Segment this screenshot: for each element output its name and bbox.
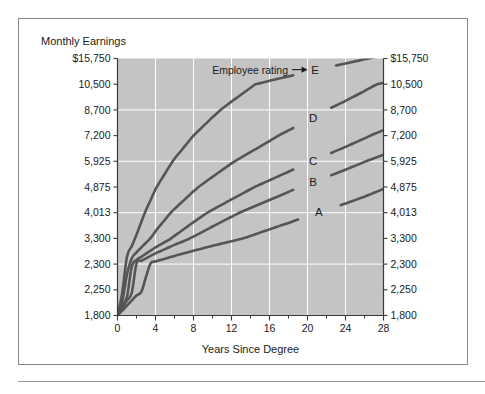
y-tick-label-right: 2,250 bbox=[391, 283, 417, 295]
series-label-e: E bbox=[311, 64, 319, 76]
y-tick-label-left: 2,250 bbox=[84, 283, 110, 295]
y-tick-label-right: 1,800 bbox=[391, 309, 417, 321]
y-tick-label-left: 2,300 bbox=[84, 258, 110, 270]
series-label-b: B bbox=[309, 176, 317, 188]
y-tick-label-left: $15,750 bbox=[73, 52, 111, 64]
x-tick-label: 12 bbox=[226, 322, 238, 334]
x-tick-label: 16 bbox=[264, 322, 276, 334]
y-tick-label-right: 10,500 bbox=[391, 78, 423, 90]
x-axis: 0481216202428 bbox=[115, 316, 390, 334]
y-tick-label-left: 4,013 bbox=[84, 206, 110, 218]
annotation-label: Employee rating bbox=[212, 64, 288, 76]
series-label-d: D bbox=[309, 112, 317, 124]
series-label-a: A bbox=[315, 206, 323, 218]
figure-container: ABCDEEmployee rating1,8001,8002,2502,250… bbox=[0, 0, 485, 394]
y-tick-label-left: 10,500 bbox=[78, 78, 110, 90]
y-tick-label-right: 8,700 bbox=[391, 104, 417, 116]
x-tick-label: 28 bbox=[378, 322, 390, 334]
y-tick-label-left: 8,700 bbox=[84, 104, 110, 116]
y-tick-label-right: 4,875 bbox=[391, 181, 417, 193]
y-tick-label-left: 1,800 bbox=[84, 309, 110, 321]
y-tick-label-right: 5,925 bbox=[391, 155, 417, 167]
y-tick-label-left: 5,925 bbox=[84, 155, 110, 167]
y-tick-label-right: $15,750 bbox=[391, 52, 429, 64]
x-tick-label: 24 bbox=[340, 322, 352, 334]
x-tick-label: 0 bbox=[115, 322, 121, 334]
y-tick-label-left: 3,300 bbox=[84, 232, 110, 244]
x-tick-label: 20 bbox=[302, 322, 314, 334]
page-title: Monthly Earnings bbox=[41, 35, 126, 47]
y-tick-label-right: 7,200 bbox=[391, 129, 417, 141]
y-tick-label-right: 3,300 bbox=[391, 232, 417, 244]
x-tick-label: 4 bbox=[153, 322, 159, 334]
earnings-line-chart: ABCDEEmployee rating1,8001,8002,2502,250… bbox=[0, 0, 485, 394]
x-axis-title: Years Since Degree bbox=[202, 343, 299, 355]
y-tick-label-left: 7,200 bbox=[84, 129, 110, 141]
y-tick-label-left: 4,875 bbox=[84, 181, 110, 193]
series-label-c: C bbox=[309, 155, 317, 167]
y-tick-label-right: 4,013 bbox=[391, 206, 417, 218]
x-tick-label: 8 bbox=[191, 322, 197, 334]
y-tick-label-right: 2,300 bbox=[391, 258, 417, 270]
